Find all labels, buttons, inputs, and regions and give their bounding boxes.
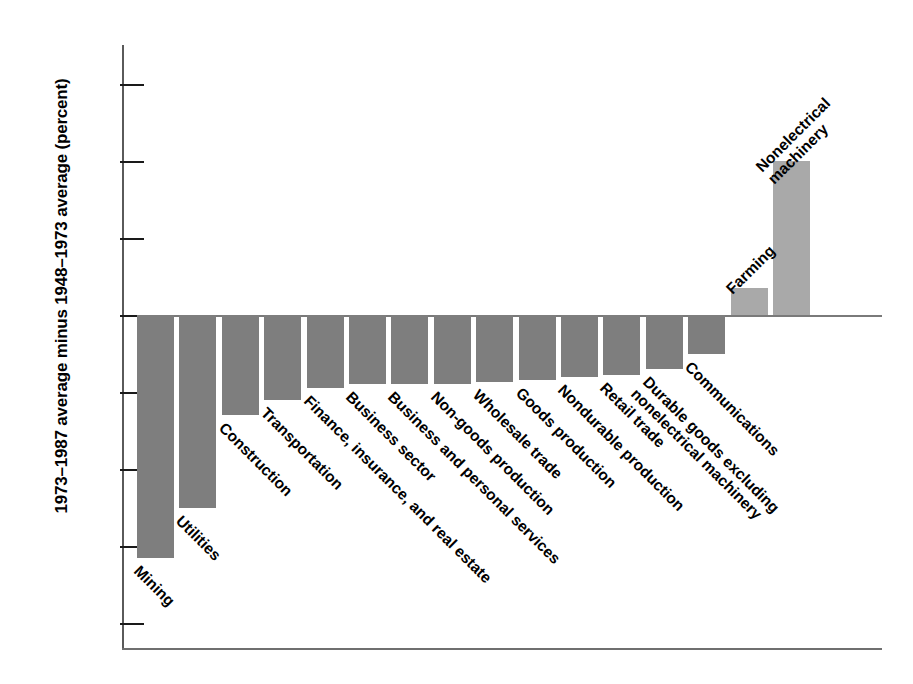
bar xyxy=(137,315,174,558)
plot-area: 6420−2−4−6−8 MiningUtilitiesConstruction… xyxy=(122,45,882,650)
bar xyxy=(688,315,725,354)
y-axis-line xyxy=(122,45,124,650)
y-axis-title: 1973–1987 average minus 1948–1973 averag… xyxy=(52,36,72,556)
bar xyxy=(307,315,344,388)
bottom-axis-line xyxy=(122,648,882,650)
bar xyxy=(349,315,386,384)
bar xyxy=(179,315,216,508)
bar xyxy=(646,315,683,369)
bar xyxy=(603,315,640,375)
bar xyxy=(561,315,598,377)
bar xyxy=(222,315,259,415)
y-axis-tick xyxy=(120,238,144,240)
y-axis-tick xyxy=(120,161,144,163)
bar xyxy=(264,315,301,400)
category-label: Durable goods excluding nonelectrical ma… xyxy=(627,373,782,528)
y-axis-tick xyxy=(120,84,144,86)
bar xyxy=(391,315,428,384)
bar xyxy=(434,315,471,384)
bar xyxy=(476,315,513,382)
category-label: Utilities xyxy=(173,512,225,564)
bar-chart: 1973–1987 average minus 1948–1973 averag… xyxy=(0,0,913,684)
category-label: Mining xyxy=(131,562,179,610)
y-axis-tick xyxy=(120,623,144,625)
bar xyxy=(519,315,556,380)
